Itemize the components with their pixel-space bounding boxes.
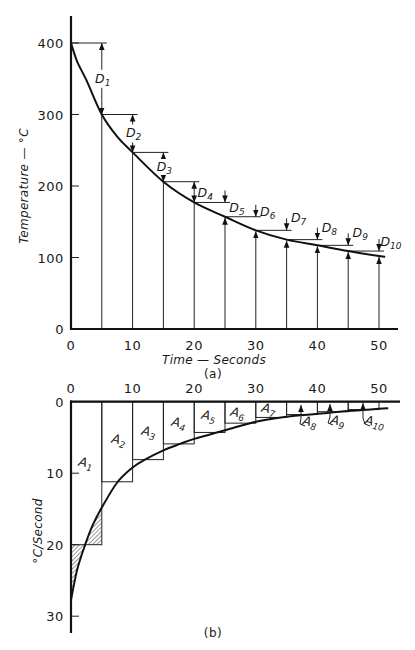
difference-label: D4 bbox=[198, 185, 214, 202]
x-tick-label: 10 bbox=[124, 381, 142, 396]
area-label: A4 bbox=[169, 414, 188, 434]
y-tick-label: 20 bbox=[46, 538, 64, 553]
chart-svg: 010020030040001020304050Time — Seconds(a… bbox=[0, 0, 415, 650]
area-label-subscript: 5 bbox=[208, 415, 216, 426]
panel-caption: (b) bbox=[204, 626, 222, 640]
area-label-subscript: 2 bbox=[118, 439, 126, 450]
difference-label-letter: D bbox=[126, 125, 136, 140]
difference-label-letter: D bbox=[291, 210, 301, 225]
area-label-subscript: 1 bbox=[85, 462, 93, 473]
difference-label-letter: D bbox=[260, 204, 270, 219]
difference-label: D2 bbox=[126, 125, 142, 142]
y-axis-label: Temperature — °C bbox=[17, 128, 31, 244]
area-label: A1 bbox=[76, 454, 94, 474]
y-axis-label: °C/Second bbox=[31, 498, 45, 563]
difference-label-subscript: 10 bbox=[390, 241, 402, 251]
difference-label: D9 bbox=[353, 225, 369, 242]
area-label-subscript: 6 bbox=[237, 412, 245, 423]
y-tick-label: 30 bbox=[46, 609, 64, 624]
difference-label-letter: D bbox=[380, 234, 390, 249]
x-tick-label: 40 bbox=[309, 338, 327, 353]
difference-label-subscript: 5 bbox=[239, 207, 245, 217]
area-label: A9 bbox=[328, 412, 347, 432]
area-label-subscript: 9 bbox=[337, 420, 345, 431]
y-tick-label: 100 bbox=[37, 251, 64, 266]
area-label-subscript: 10 bbox=[372, 421, 386, 433]
panel-b-rate-chart: 010203001020304050(b)°C/SecondA1A2A3A4A5… bbox=[31, 381, 400, 640]
difference-label: D8 bbox=[322, 220, 338, 237]
difference-label-subscript: 2 bbox=[136, 132, 142, 142]
difference-label-letter: D bbox=[95, 71, 105, 86]
y-tick-label: 200 bbox=[37, 179, 64, 194]
temperature-curve bbox=[71, 43, 385, 257]
x-tick-label: 30 bbox=[247, 338, 265, 353]
difference-label: D3 bbox=[157, 159, 173, 176]
y-tick-label: 0 bbox=[55, 322, 64, 337]
area-rectangle bbox=[317, 402, 348, 412]
area-label-subscript: 8 bbox=[309, 421, 317, 432]
x-tick-label: 40 bbox=[309, 381, 327, 396]
difference-label-subscript: 9 bbox=[362, 232, 368, 242]
area-label: A5 bbox=[199, 407, 218, 427]
panel-a-temperature-chart: 010020030040001020304050Time — Seconds(a… bbox=[17, 16, 402, 381]
difference-label: D6 bbox=[260, 204, 276, 221]
difference-label: D1 bbox=[95, 71, 110, 88]
x-tick-label: 30 bbox=[247, 381, 265, 396]
difference-label-subscript: 4 bbox=[207, 192, 213, 202]
area-label: A2 bbox=[109, 431, 128, 451]
difference-label: D10 bbox=[380, 234, 401, 251]
difference-label-letter: D bbox=[198, 185, 208, 200]
difference-label-subscript: 1 bbox=[105, 78, 111, 88]
x-tick-label: 50 bbox=[370, 381, 388, 396]
difference-label-letter: D bbox=[322, 220, 332, 235]
area-label: A10 bbox=[362, 412, 386, 433]
area-label: A6 bbox=[228, 404, 247, 424]
x-tick-label: 0 bbox=[67, 338, 76, 353]
difference-label-subscript: 6 bbox=[270, 211, 276, 221]
difference-label-letter: D bbox=[353, 225, 363, 240]
y-tick-label: 300 bbox=[37, 108, 64, 123]
difference-label: D7 bbox=[291, 210, 307, 227]
difference-label-letter: D bbox=[229, 200, 239, 215]
difference-label-subscript: 8 bbox=[331, 227, 337, 237]
y-tick-label: 0 bbox=[55, 395, 64, 410]
difference-label: D5 bbox=[229, 200, 245, 217]
difference-label-subscript: 3 bbox=[166, 166, 172, 176]
x-tick-label: 50 bbox=[370, 338, 388, 353]
x-tick-label: 20 bbox=[185, 381, 203, 396]
y-tick-label: 400 bbox=[37, 36, 64, 51]
difference-label-letter: D bbox=[157, 159, 167, 174]
panel-caption: (a) bbox=[204, 367, 222, 381]
difference-label-subscript: 7 bbox=[301, 217, 307, 227]
x-tick-label: 0 bbox=[67, 381, 76, 396]
x-tick-label: 20 bbox=[185, 338, 203, 353]
area-label: A3 bbox=[139, 423, 158, 443]
area-rectangle bbox=[287, 402, 318, 415]
x-axis-label: Time — Seconds bbox=[162, 353, 266, 367]
area-label-subscript: 3 bbox=[148, 431, 156, 442]
area-label-subscript: 4 bbox=[178, 422, 186, 433]
figure-container: 010020030040001020304050Time — Seconds(a… bbox=[0, 0, 415, 650]
x-tick-label: 10 bbox=[124, 338, 142, 353]
y-tick-label: 10 bbox=[46, 466, 64, 481]
